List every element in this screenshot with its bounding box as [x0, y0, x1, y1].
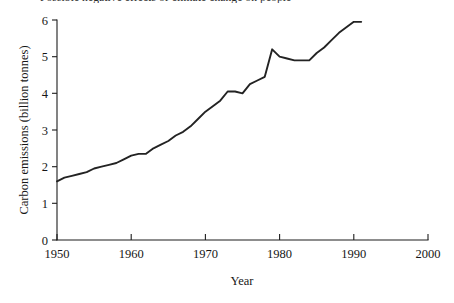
y-tick-label-6: 6 [42, 14, 48, 28]
y-tick-label-2: 2 [42, 160, 48, 174]
y-axis: 6 5 4 3 2 1 0 Carbon emissions (billion … [17, 14, 57, 248]
x-tick-label-1950: 1950 [45, 247, 70, 261]
carbon-emissions-series-line [57, 22, 361, 182]
x-tick-label-1960: 1960 [119, 247, 144, 261]
x-axis-title: Year [230, 274, 254, 288]
y-axis-ticks [52, 20, 57, 240]
y-tick-label-0: 0 [42, 234, 48, 248]
carbon-emissions-line-chart: 6 5 4 3 2 1 0 Carbon emissions (billion … [0, 0, 454, 303]
x-tick-label-1970: 1970 [193, 247, 218, 261]
y-tick-label-4: 4 [42, 87, 49, 101]
y-tick-label-3: 3 [42, 124, 48, 138]
x-tick-label-2000: 2000 [416, 247, 441, 261]
x-axis: 1950 1960 1970 1980 1990 2000 Year [45, 234, 441, 288]
x-tick-label-1990: 1990 [341, 247, 366, 261]
x-tick-label-1980: 1980 [267, 247, 292, 261]
y-tick-label-5: 5 [42, 50, 48, 64]
y-tick-label-1: 1 [42, 197, 48, 211]
figure-container: Possible negative effects of climate cha… [0, 0, 454, 303]
y-axis-title: Carbon emissions (billion tonnes) [17, 45, 31, 214]
x-axis-ticks [57, 234, 428, 240]
